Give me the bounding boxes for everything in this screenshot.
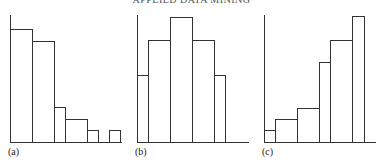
histogram-bar <box>10 29 33 142</box>
histogram-bar <box>109 130 121 142</box>
histogram-bar <box>297 108 320 142</box>
panel-label-b: (b) <box>135 146 147 157</box>
y-axis-c <box>264 15 265 142</box>
histogram-bar <box>170 17 193 142</box>
panel-label-c: (c) <box>262 146 273 157</box>
histogram-bar <box>87 130 99 142</box>
histogram-bar <box>148 40 171 142</box>
x-axis-b <box>137 142 249 143</box>
histogram-bar <box>330 40 353 142</box>
page-header: APPLIED DATA MINING <box>0 0 383 5</box>
histogram-bar <box>65 119 88 142</box>
panel-label-a: (a) <box>8 146 19 157</box>
histogram-bar <box>32 41 55 142</box>
histogram-bar <box>275 119 298 142</box>
x-axis-c <box>264 142 376 143</box>
x-axis-a <box>10 142 122 143</box>
histogram-bar <box>214 75 226 142</box>
histogram-bar <box>352 16 365 142</box>
histogram-bar <box>192 40 215 142</box>
